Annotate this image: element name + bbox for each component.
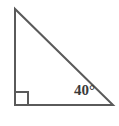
- geometry-figure: 40°: [0, 0, 119, 126]
- triangle-shape: [15, 9, 113, 105]
- angle-label-40: 40°: [74, 82, 95, 98]
- right-triangle-drawing: [0, 0, 119, 126]
- right-angle-square-icon: [15, 92, 28, 105]
